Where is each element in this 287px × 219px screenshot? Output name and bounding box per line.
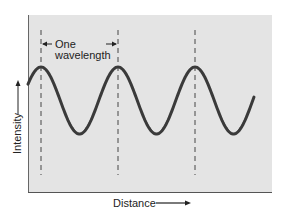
x-axis-label: Distance	[113, 197, 156, 209]
annotation-line2: wavelength	[54, 49, 111, 61]
arrow-right-icon	[185, 201, 191, 206]
wavelength-diagram: One wavelength Intensity Distance	[0, 0, 287, 219]
y-axis-label: Intensity	[11, 113, 23, 154]
arrow-up-icon	[16, 80, 21, 86]
